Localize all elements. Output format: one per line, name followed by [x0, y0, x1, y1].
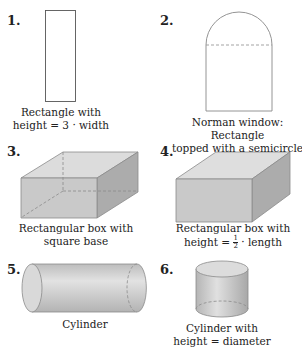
caption-4: Rectangular box with height = 12 · lengt…	[158, 222, 302, 250]
caption-4-suffix: · length	[238, 236, 282, 248]
caption-5: Cylinder	[20, 318, 150, 331]
figure-number-6: 6.	[160, 262, 174, 277]
caption-4-line-1: Rectangular box with	[158, 222, 302, 235]
caption-2-line-2: topped with a semicircle	[165, 142, 302, 155]
caption-1-line-1: Rectangle with	[0, 106, 122, 119]
caption-3-line-1: Rectangular box with	[0, 222, 152, 235]
shapes-canvas	[0, 0, 302, 347]
caption-3-line-2: square base	[0, 235, 152, 248]
cylinder-figure	[22, 264, 146, 312]
caption-2: Norman window: Rectangle topped with a s…	[165, 116, 302, 155]
box-half-height-figure	[176, 152, 290, 222]
cylinder-equal-figure	[196, 261, 248, 317]
rectangle-figure	[46, 11, 76, 102]
caption-1: Rectangle with height = 3 · width	[0, 106, 122, 132]
box-square-base-figure	[21, 152, 138, 218]
figure-number-2: 2.	[160, 13, 174, 28]
caption-6-line-1: Cylinder with	[167, 322, 277, 335]
caption-4-line-2: height = 12 · length	[158, 235, 302, 250]
norman-window-figure	[206, 12, 272, 111]
caption-4-prefix: height =	[184, 236, 234, 248]
caption-2-line-1: Norman window: Rectangle	[165, 116, 302, 142]
caption-3: Rectangular box with square base	[0, 222, 152, 248]
figure-number-1: 1.	[7, 13, 21, 28]
figure-number-3: 3.	[7, 144, 21, 159]
caption-5-line-1: Cylinder	[20, 318, 150, 331]
caption-1-line-2: height = 3 · width	[0, 119, 122, 132]
figure-number-5: 5.	[7, 262, 21, 277]
caption-6: Cylinder with height = diameter	[167, 322, 277, 347]
caption-6-line-2: height = diameter	[167, 335, 277, 347]
